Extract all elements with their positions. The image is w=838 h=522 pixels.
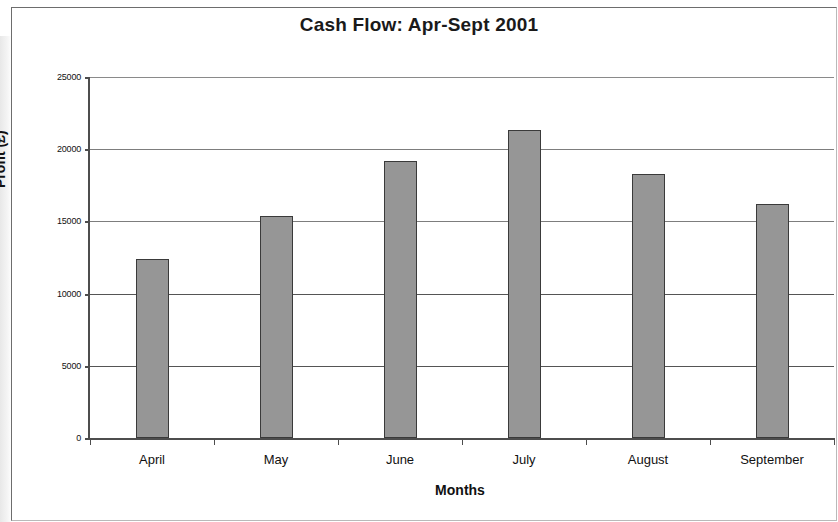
chart-title: Cash Flow: Apr-Sept 2001 xyxy=(0,14,838,36)
gridline xyxy=(90,149,834,150)
x-tick-label: August xyxy=(628,452,668,467)
chart-page: Cash Flow: Apr-Sept 2001 Profit (£) 0500… xyxy=(0,0,838,522)
bar-may xyxy=(260,216,293,438)
y-tick-mark xyxy=(85,77,90,79)
y-axis-title: Profit (£) xyxy=(0,130,8,188)
page-top-margin xyxy=(0,0,838,4)
y-tick-mark xyxy=(85,294,90,296)
gridline xyxy=(90,366,834,367)
bar-april xyxy=(136,259,169,438)
y-tick-mark xyxy=(85,149,90,151)
gridline xyxy=(90,221,834,222)
x-tick-mark xyxy=(710,438,711,445)
x-tick-mark xyxy=(462,438,463,445)
x-tick-mark xyxy=(834,438,835,445)
plot-area: 0500010000150002000025000 AprilMayJuneJu… xyxy=(88,77,834,440)
y-tick-label: 15000 xyxy=(57,216,81,226)
y-tick-label: 5000 xyxy=(62,361,81,371)
bar-august xyxy=(632,174,665,438)
bar-september xyxy=(756,204,789,438)
x-tick-label: May xyxy=(264,452,289,467)
bar-june xyxy=(384,161,417,438)
y-tick-label: 20000 xyxy=(57,144,81,154)
x-tick-label: June xyxy=(386,452,414,467)
x-tick-label: September xyxy=(740,452,804,467)
bar-july xyxy=(508,130,541,438)
y-tick-label: 25000 xyxy=(57,72,81,82)
x-tick-label: April xyxy=(139,452,165,467)
x-tick-mark xyxy=(338,438,339,445)
y-tick-mark xyxy=(85,366,90,368)
gridline xyxy=(90,294,834,295)
x-tick-mark xyxy=(586,438,587,445)
x-tick-mark xyxy=(214,438,215,445)
gridline xyxy=(90,77,834,78)
y-tick-label: 10000 xyxy=(57,289,81,299)
y-tick-label: 0 xyxy=(76,433,81,443)
x-tick-label: July xyxy=(512,452,535,467)
x-axis-title: Months xyxy=(88,482,832,498)
y-tick-mark xyxy=(85,221,90,223)
x-tick-mark xyxy=(90,438,91,445)
